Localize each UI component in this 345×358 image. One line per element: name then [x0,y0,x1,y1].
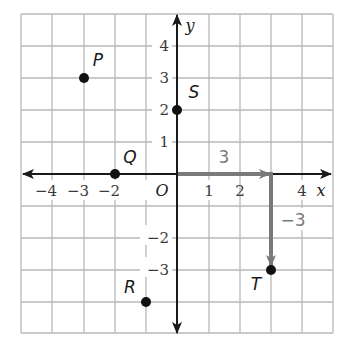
coordinate-plane-svg: −4 −3 −2 1 2 4 O x 4 3 2 1 −2 −3 y 3 −3 … [0,0,345,358]
svg-text:Q: Q [123,147,136,167]
y-tick-label: 1 [159,133,169,151]
x-tick-label: −3 [67,182,89,200]
x-axis-label: x [316,181,325,200]
x-tick-label: 4 [297,182,307,200]
y-tick-label: 4 [159,37,169,55]
svg-text:S: S [189,82,200,102]
x-tick-label: −4 [35,182,57,200]
y-tick-label: 2 [159,101,169,119]
horizontal-vector-label: 3 [219,147,230,167]
y-tick-label: −2 [147,229,169,247]
y-axis-label: y [184,16,195,35]
y-tick-label: 3 [159,69,169,87]
svg-text:R: R [124,277,136,297]
svg-text:T: T [251,274,263,294]
x-tick-label: −2 [98,182,120,200]
vertical-vector-label: −3 [280,210,305,230]
x-tick-label: 2 [235,182,245,200]
coordinate-plane-figure: −4 −3 −2 1 2 4 O x 4 3 2 1 −2 −3 y 3 −3 … [0,0,345,358]
svg-text:P: P [93,50,104,70]
origin-label: O [155,181,168,200]
y-tick-label: −3 [147,261,169,279]
x-tick-label: 1 [204,182,214,200]
